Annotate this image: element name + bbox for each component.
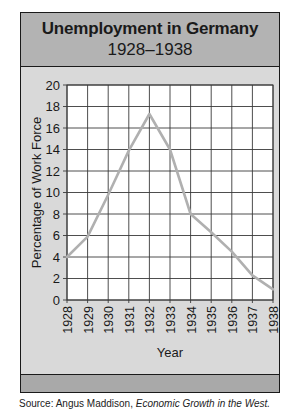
- x-tick-label: 1932: [143, 306, 157, 334]
- y-tick-label: 0: [53, 293, 60, 308]
- y-tick-label: 14: [46, 142, 60, 157]
- source-work-title: Economic Growth in the West.: [136, 398, 270, 409]
- x-tick-label: 1929: [82, 306, 96, 334]
- x-tick-label: 1934: [185, 306, 199, 334]
- y-axis-ticks: 02468101214161820: [46, 78, 60, 308]
- y-tick-label: 10: [46, 185, 60, 200]
- y-tick-label: 20: [46, 78, 60, 93]
- x-axis-ticks: 1928192919301931193219331934193519361937…: [61, 306, 281, 334]
- y-tick-label: 18: [46, 99, 60, 114]
- y-tick-label: 2: [53, 271, 60, 286]
- y-tick-label: 6: [53, 228, 60, 243]
- x-tick-label: 1938: [267, 306, 281, 334]
- x-tick-label: 1928: [61, 306, 75, 334]
- source-prefix: Source: Angus Maddison,: [19, 398, 136, 409]
- x-tick-label: 1931: [123, 306, 137, 334]
- y-tick-label: 8: [53, 207, 60, 222]
- x-axis-label: Year: [157, 345, 184, 360]
- y-tick-label: 16: [46, 121, 60, 136]
- y-tick-label: 12: [46, 164, 60, 179]
- line-chart: 02468101214161820 1928192919301931193219…: [0, 0, 297, 417]
- y-tick-label: 4: [53, 250, 60, 265]
- source-citation: Source: Angus Maddison, Economic Growth …: [19, 398, 270, 409]
- y-axis-label: Percentage of Work Force: [29, 117, 44, 269]
- x-tick-label: 1936: [226, 306, 240, 334]
- x-tick-label: 1937: [246, 306, 260, 334]
- x-tick-label: 1930: [102, 306, 116, 334]
- x-tick-label: 1933: [164, 306, 178, 334]
- x-tick-label: 1935: [205, 306, 219, 334]
